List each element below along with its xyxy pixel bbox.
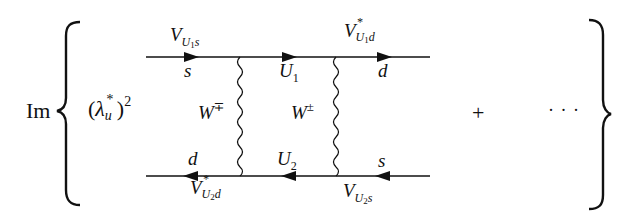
w-charge: ∓	[214, 99, 225, 114]
v-sub-u: U	[355, 191, 364, 205]
v-sub-index: 1	[190, 40, 195, 50]
u-symbol: U	[277, 148, 291, 169]
v-sub-u: U	[182, 35, 191, 49]
u-index: 1	[293, 71, 299, 85]
lambda-symbol: λ	[95, 96, 105, 121]
w-boson-label-right: W±	[291, 102, 314, 124]
w-charge: ±	[307, 99, 314, 114]
v-symbol: V	[190, 177, 202, 198]
vertex-label-bottom-left: V*U2d	[190, 177, 238, 199]
vertex-label-top-left: VU1s	[170, 24, 199, 46]
v-sub-quark: d	[369, 30, 375, 44]
v-sub-index: 2	[363, 196, 368, 206]
plus-sign: +	[472, 100, 484, 126]
v-symbol: V	[344, 20, 356, 41]
u-index: 2	[291, 159, 297, 173]
w-boson-line-right	[334, 57, 339, 176]
w-boson-line-left	[238, 57, 243, 176]
left-brace	[57, 22, 80, 205]
v-sub-index: 2	[210, 192, 215, 202]
v-symbol: V	[343, 180, 355, 201]
w-boson-label-left: W∓	[198, 102, 225, 124]
power: 2	[124, 94, 131, 109]
vertex-label-bottom-right: VU2s	[343, 180, 372, 202]
v-sub-quark: d	[215, 187, 221, 201]
v-conj: *	[203, 172, 209, 187]
v-subscript: U2d	[202, 187, 221, 202]
lambda-scripts: *u	[105, 106, 117, 116]
w-symbol: W	[198, 102, 214, 123]
v-scripts: *U2d	[202, 184, 238, 194]
particle-u1: U1	[279, 60, 299, 82]
v-sub-u: U	[202, 187, 211, 201]
v-sub-index: 1	[364, 35, 369, 45]
right-brace	[589, 20, 611, 209]
v-symbol: V	[170, 24, 182, 45]
v-conj: *	[357, 15, 363, 30]
particle-s-bottom: s	[378, 150, 385, 172]
v-sub-quark: s	[195, 35, 200, 49]
particle-s-top: s	[184, 60, 191, 82]
im-operator: Im	[26, 98, 50, 124]
lambda-sub: u	[105, 108, 112, 124]
v-subscript: U1d	[356, 30, 375, 45]
u-symbol: U	[279, 60, 293, 81]
v-sub-quark: s	[368, 191, 373, 205]
vertex-label-top-right: V*U1d	[344, 20, 392, 42]
v-scripts: *U1d	[356, 27, 392, 37]
v-subscript: U1s	[182, 35, 200, 49]
particle-d-bottom: d	[188, 148, 198, 170]
particle-d-top: d	[378, 60, 388, 82]
lambda-sup: *	[106, 92, 113, 108]
v-subscript: U2s	[355, 191, 373, 205]
arrow-left-icon	[375, 171, 390, 181]
v-sub-u: U	[356, 30, 365, 44]
ellipsis: · · ·	[548, 100, 580, 121]
w-symbol: W	[291, 102, 307, 123]
particle-u2: U2	[277, 148, 297, 170]
prefactor: (λ*u)2	[88, 96, 131, 122]
